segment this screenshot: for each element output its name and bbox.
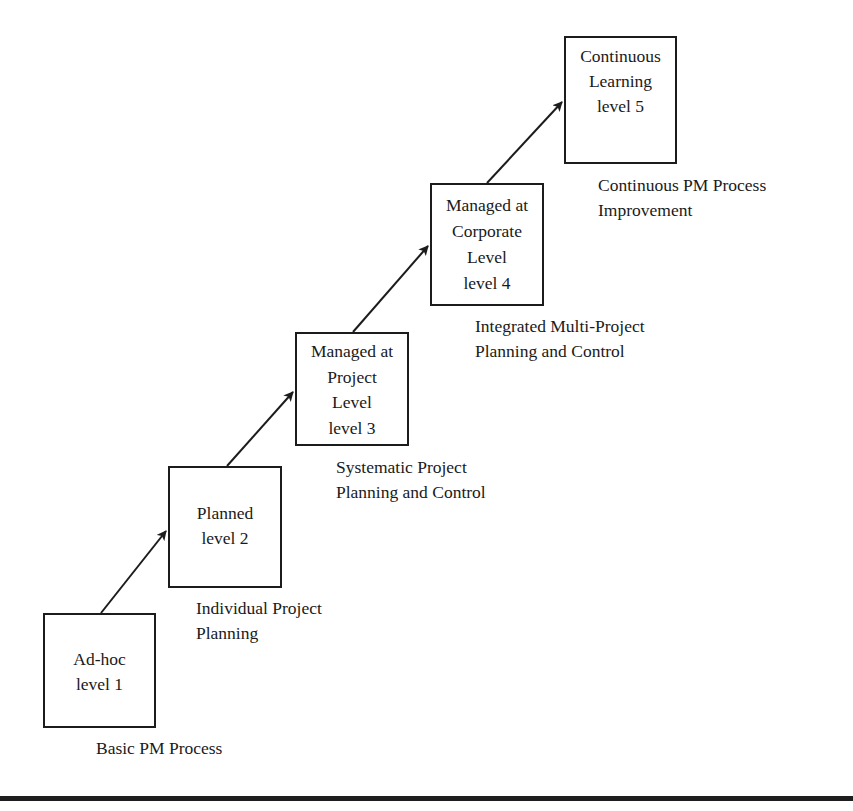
- level-3-caption-line-1: Systematic Project: [336, 455, 486, 480]
- level-2-label: level 2: [170, 526, 280, 551]
- maturity-diagram: Ad-hoc level 1 Basic PM Process Planned …: [0, 0, 853, 811]
- level-5-title-line-2: Learning: [566, 69, 675, 94]
- level-3-caption: Systematic Project Planning and Control: [336, 455, 486, 505]
- level-4-caption-line-1: Integrated Multi-Project: [475, 314, 645, 339]
- level-3-title-line-3: Level: [297, 390, 407, 416]
- level-5-box: Continuous Learning level 5: [564, 36, 677, 164]
- level-3-caption-line-2: Planning and Control: [336, 480, 486, 505]
- level-3-box: Managed at Project Level level 3: [295, 332, 409, 446]
- level-1-caption-line: Basic PM Process: [96, 736, 222, 761]
- level-5-caption: Continuous PM Process Improvement: [598, 173, 766, 223]
- level-5-caption-line-2: Improvement: [598, 198, 766, 223]
- level-2-box: Planned level 2: [168, 466, 282, 588]
- level-3-title-line-1: Managed at: [297, 339, 407, 365]
- level-3-label: level 3: [297, 416, 407, 442]
- arrow-level3-to-level4: [353, 246, 428, 332]
- level-4-caption: Integrated Multi-Project Planning and Co…: [475, 314, 645, 364]
- arrow-level1-to-level2: [101, 531, 166, 613]
- level-1-caption: Basic PM Process: [96, 736, 222, 761]
- level-2-title: Planned: [170, 501, 280, 526]
- arrow-level4-to-level5: [487, 102, 562, 183]
- level-4-caption-line-2: Planning and Control: [475, 339, 645, 364]
- level-2-caption: Individual Project Planning: [196, 596, 322, 646]
- level-4-title-line-2: Corporate: [432, 218, 542, 244]
- level-5-caption-line-1: Continuous PM Process: [598, 173, 766, 198]
- level-1-box: Ad-hoc level 1: [43, 613, 156, 728]
- level-5-label: level 5: [566, 94, 675, 119]
- level-1-title: Ad-hoc: [45, 647, 154, 672]
- level-4-title-line-1: Managed at: [432, 192, 542, 218]
- level-5-title-line-1: Continuous: [566, 44, 675, 69]
- level-4-title-line-3: Level: [432, 244, 542, 270]
- arrow-level2-to-level3: [227, 392, 293, 466]
- level-4-label: level 4: [432, 270, 542, 296]
- level-1-label: level 1: [45, 672, 154, 697]
- level-4-box: Managed at Corporate Level level 4: [430, 183, 544, 306]
- level-2-caption-line-1: Individual Project: [196, 596, 322, 621]
- level-3-title-line-2: Project: [297, 365, 407, 391]
- level-2-caption-line-2: Planning: [196, 621, 322, 646]
- bottom-rule: [0, 796, 853, 801]
